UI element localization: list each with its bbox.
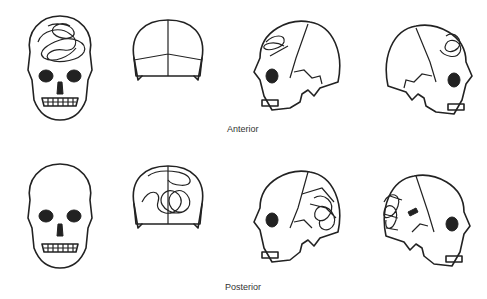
skull-back-view-anterior	[128, 16, 208, 82]
label-anterior: Anterior	[227, 124, 259, 134]
label-posterior: Posterior	[225, 282, 261, 292]
skull-left-lateral-posterior	[250, 168, 342, 266]
skull-right-lateral-anterior	[384, 22, 474, 118]
skull-left-lateral-anterior	[250, 18, 342, 114]
skull-right-lateral-posterior	[376, 172, 472, 270]
skull-front-view-anterior	[20, 12, 100, 124]
skull-front-view-posterior	[20, 160, 100, 272]
skull-back-view-posterior	[128, 162, 208, 232]
